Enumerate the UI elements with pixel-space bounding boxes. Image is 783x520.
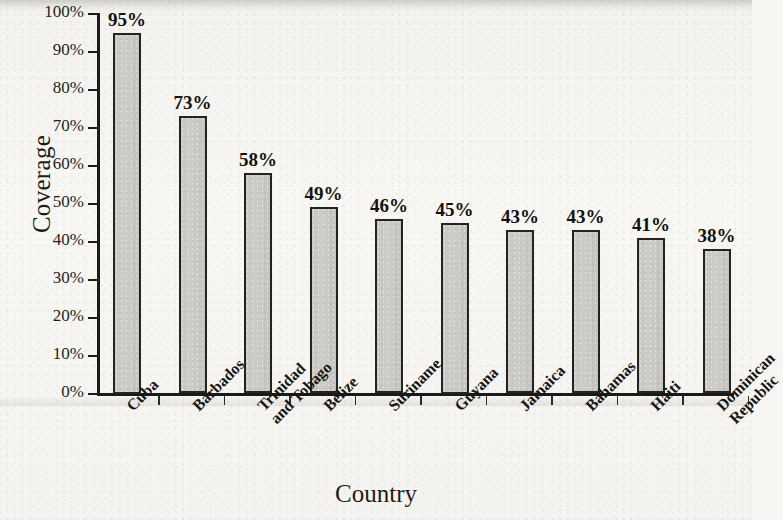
bar (703, 249, 731, 393)
x-axis-tick (224, 396, 226, 405)
bar (113, 33, 141, 394)
x-axis-tick (158, 396, 160, 405)
bar-value-label: 46% (352, 195, 426, 217)
y-axis-tick-label: 60% (22, 154, 84, 174)
bar (572, 230, 600, 393)
y-axis-tick-label: 80% (22, 78, 84, 98)
x-axis-tick (551, 396, 553, 405)
bar-value-label: 43% (549, 206, 623, 228)
bar-value-label: 41% (614, 214, 688, 236)
bar (637, 238, 665, 394)
y-axis-tick-label: 20% (22, 306, 84, 326)
y-axis-tick (88, 393, 98, 395)
y-axis-tick-label: 40% (22, 230, 84, 250)
x-axis-tick (420, 396, 422, 405)
y-axis-tick (88, 203, 98, 205)
y-axis-tick-label: 50% (22, 192, 84, 212)
x-axis-tick (682, 396, 684, 405)
y-axis-tick (88, 127, 98, 129)
y-axis-tick (88, 355, 98, 357)
bar-value-label: 58% (221, 149, 295, 171)
x-axis-tick (486, 396, 488, 405)
bar-value-label: 38% (680, 225, 754, 247)
y-axis-tick-label: 30% (22, 268, 84, 288)
bar (441, 223, 469, 394)
bar-value-label: 73% (156, 92, 230, 114)
bar (179, 116, 207, 393)
x-axis-tick (355, 396, 357, 405)
y-axis-tick-label: 70% (22, 116, 84, 136)
bar (375, 219, 403, 394)
y-axis-tick-label: 100% (22, 2, 84, 22)
y-axis-tick (88, 317, 98, 319)
bar-value-label: 43% (483, 206, 557, 228)
bar (244, 173, 272, 393)
y-axis-tick-label: 0% (22, 382, 84, 402)
bar-value-label: 49% (287, 183, 361, 205)
y-axis-tick (88, 241, 98, 243)
x-axis-title: Country (0, 480, 752, 508)
y-axis-tick (88, 165, 98, 167)
y-axis-tick-label: 90% (22, 40, 84, 60)
bar-value-label: 45% (418, 199, 492, 221)
y-axis-tick (88, 89, 98, 91)
y-axis-tick-label: 10% (22, 344, 84, 364)
y-axis-tick (88, 51, 98, 53)
x-axis-tick (617, 396, 619, 405)
y-axis-title: Coverage (28, 124, 56, 244)
bar (506, 230, 534, 393)
y-axis-tick (88, 279, 98, 281)
y-axis-line (97, 13, 100, 396)
bar-value-label: 95% (90, 9, 164, 31)
